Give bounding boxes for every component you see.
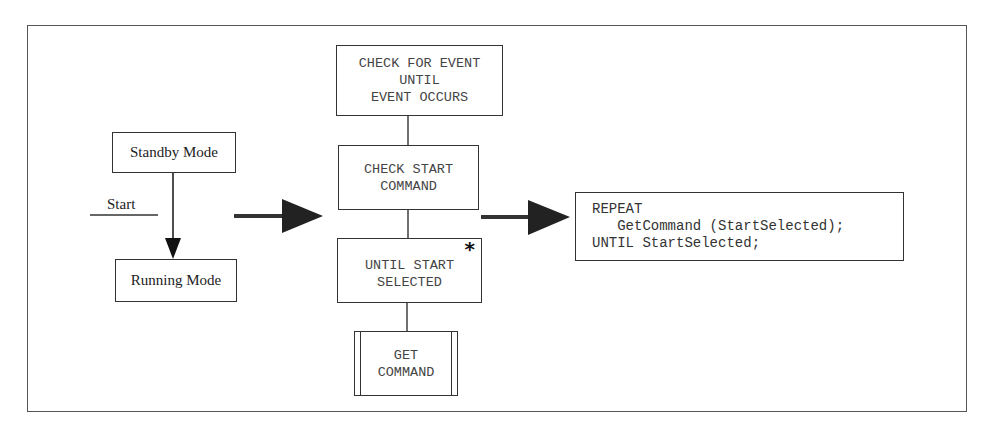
iteration-marker-icon: * xyxy=(465,241,475,258)
node-text: COMMAND xyxy=(378,364,435,381)
node-text: CHECK FOR EVENT xyxy=(359,55,481,72)
code-line: REPEAT xyxy=(592,201,642,218)
state-label: Running Mode xyxy=(131,272,221,289)
pseudocode-box: REPEAT GetCommand (StartSelected); UNTIL… xyxy=(575,192,904,261)
node-text: GET xyxy=(394,347,418,364)
state-standby-mode: Standby Mode xyxy=(112,132,236,173)
code-line: GetCommand (StartSelected); xyxy=(592,218,844,235)
node-text: UNTIL xyxy=(399,72,440,89)
state-label: Standby Mode xyxy=(130,144,218,161)
predefined-process-bar-left xyxy=(360,332,361,395)
predefined-process-bar-right xyxy=(451,332,452,395)
code-line: UNTIL StartSelected; xyxy=(592,235,760,252)
node-check-for-event: CHECK FOR EVENT UNTIL EVENT OCCURS xyxy=(336,45,503,116)
node-text: EVENT OCCURS xyxy=(371,89,468,106)
node-until-start-selected: * UNTIL START SELECTED xyxy=(337,238,482,303)
transition-label-start: Start xyxy=(107,196,135,213)
node-text: COMMAND xyxy=(380,178,437,195)
state-running-mode: Running Mode xyxy=(115,259,237,302)
node-text: UNTIL START xyxy=(365,257,454,274)
node-check-start-command: CHECK START COMMAND xyxy=(338,145,479,210)
node-get-command: GET COMMAND xyxy=(354,331,458,396)
node-text: CHECK START xyxy=(364,161,453,178)
node-text: SELECTED xyxy=(377,274,442,291)
